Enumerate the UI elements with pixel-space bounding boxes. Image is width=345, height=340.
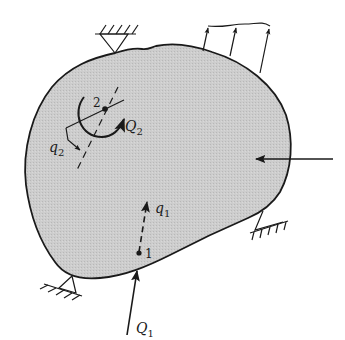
right-support	[250, 211, 288, 240]
Q1-label: Q1	[136, 320, 154, 339]
bottom-left-support	[40, 276, 82, 300]
mechanics-diagram: 1 q1 Q1 2 Q2 q2	[0, 0, 345, 340]
rigid-body	[25, 44, 291, 278]
point-1-dot	[136, 250, 141, 255]
load-arrow-1	[203, 28, 208, 51]
load-arrow-2	[230, 28, 236, 56]
point-2-label: 2	[93, 96, 101, 110]
load-envelope	[208, 23, 270, 26]
point-1-label: 1	[145, 247, 153, 261]
point-2-dot	[102, 106, 108, 112]
load-arrow-3	[260, 29, 269, 73]
